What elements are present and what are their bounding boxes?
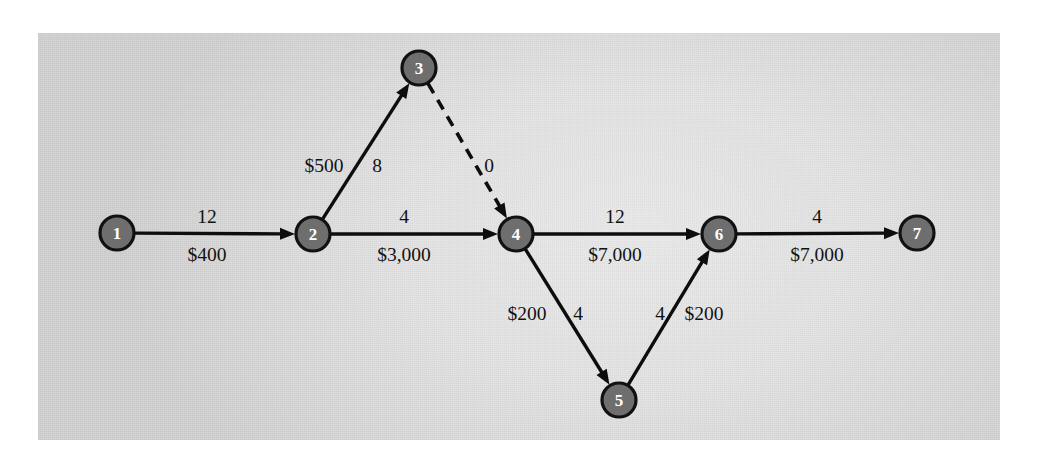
node-label-1: 1 [113,224,122,243]
edge-cost-label-2-4: $3,000 [377,244,431,265]
arrow-head-1-2 [280,228,295,240]
node-5[interactable]: 5 [602,383,636,417]
edge-cost-label-4-6: $7,000 [588,244,642,265]
edge-cost-label-6-7: $7,000 [790,244,844,265]
arrow-head-6-7 [884,227,899,239]
node-label-4: 4 [512,225,521,244]
node-label-7: 7 [913,224,922,243]
node-4[interactable]: 4 [499,217,533,251]
edge-3-to-4 [428,84,507,219]
arrow-head-4-6 [686,228,701,240]
edge-6-to-7 [737,227,899,239]
arrow-head-2-3 [396,83,409,99]
node-1[interactable]: 1 [100,216,134,250]
node-label-5: 5 [615,391,624,410]
edge-time-label-5-6: 4 [655,303,665,324]
edge-1-to-2 [135,228,295,240]
node-label-3: 3 [415,59,424,78]
edge-time-label-2-3: 8 [372,155,382,176]
node-label-6: 6 [715,225,724,244]
edge-2-to-4 [331,228,498,240]
edge-time-label-3-4: 0 [484,155,494,176]
edge-time-label-1-2: 12 [197,206,217,227]
edge-4-to-6 [534,228,701,240]
node-7[interactable]: 7 [900,216,934,250]
edge-time-label-4-5: 4 [573,303,583,324]
edge-2-to-3 [323,83,410,219]
edge-time-label-2-4: 4 [399,206,409,227]
node-6[interactable]: 6 [702,217,736,251]
edge-cost-label-1-2: $400 [188,244,227,265]
arrow-head-3-4 [494,202,507,218]
arrow-head-4-5 [597,369,610,385]
node-3[interactable]: 3 [402,51,436,85]
edge-time-label-6-7: 4 [812,206,822,227]
arrow-head-5-6 [697,249,710,265]
edge-line-3-4 [428,84,500,207]
edge-line-1-2 [135,233,282,234]
edge-cost-label-5-6: $200 [685,303,724,324]
edge-cost-label-2-3: $500 [305,155,344,176]
network-diagram-page: 1234567 12$4008$50004$3,00012$7,0004$7,0… [0,0,1037,461]
node-label-2: 2 [309,225,318,244]
node-2[interactable]: 2 [296,217,330,251]
arrow-head-2-4 [483,228,498,240]
network-graph: 1234567 12$4008$50004$3,00012$7,0004$7,0… [0,0,1037,461]
edge-cost-label-4-5: $200 [508,303,547,324]
edge-line-6-7 [737,233,886,234]
edge-time-label-4-6: 12 [605,206,625,227]
